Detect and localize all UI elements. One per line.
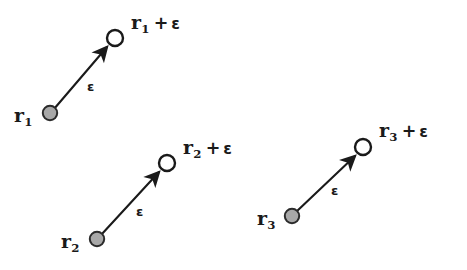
vector-group-2	[90, 155, 175, 246]
start-marker-3	[285, 209, 299, 223]
end-label-1-operator: +	[149, 13, 171, 33]
start-marker-2	[90, 232, 104, 246]
end-label-1-operand: ɛ	[171, 15, 180, 33]
start-label-2-subscript: 2	[71, 241, 79, 255]
end-label-3-operator: +	[397, 121, 419, 141]
end-label-2-subscript: 2	[193, 147, 201, 161]
start-label-2-name: r	[61, 230, 71, 252]
end-label-2: r2+ɛ	[183, 138, 232, 158]
start-label-3-name: r	[257, 207, 267, 229]
end-label-1-subscript: 1	[141, 22, 149, 36]
end-label-1-name: r	[131, 11, 141, 33]
end-label-1: r1+ɛ	[131, 13, 180, 33]
start-label-3-subscript: 3	[267, 218, 275, 232]
epsilon-glyph-2: ɛ	[136, 204, 143, 219]
vector-diagram: r1 ɛ r1+ɛ r2 ɛ r2+ɛ r3 ɛ r3+ɛ	[0, 0, 467, 270]
epsilon-glyph-1: ɛ	[87, 79, 94, 94]
start-marker-1	[43, 106, 57, 120]
end-label-3-subscript: 3	[389, 130, 397, 144]
end-label-2-name: r	[183, 136, 193, 158]
end-label-2-operand: ɛ	[223, 140, 232, 158]
vector-label-2: ɛ	[136, 203, 143, 219]
vector-arrow-3	[296, 156, 355, 212]
end-label-3-operand: ɛ	[419, 123, 428, 141]
end-label-3-name: r	[379, 119, 389, 141]
end-marker-3	[355, 139, 371, 155]
start-label-2: r2	[61, 232, 79, 251]
vector-label-1: ɛ	[87, 78, 94, 94]
end-marker-1	[107, 30, 123, 46]
start-label-3: r3	[257, 209, 275, 228]
end-marker-2	[159, 155, 175, 171]
end-label-2-operator: +	[201, 138, 223, 158]
vector-label-3: ɛ	[331, 182, 338, 198]
vector-arrow-1	[54, 47, 107, 109]
vector-group-1	[43, 30, 123, 120]
vector-group-3	[285, 139, 371, 223]
start-label-1-subscript: 1	[24, 115, 32, 129]
end-label-3: r3+ɛ	[379, 121, 428, 141]
start-label-1-name: r	[14, 104, 24, 126]
start-label-1: r1	[14, 106, 32, 125]
epsilon-glyph-3: ɛ	[331, 183, 338, 198]
vector-arrow-2	[101, 172, 159, 235]
